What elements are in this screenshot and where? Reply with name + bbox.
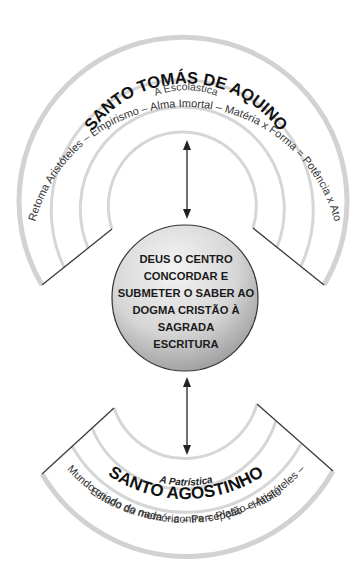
center-line-4: DOGMA CRISTÃO À	[132, 304, 239, 316]
center-line-2: CONCORDAR E	[144, 270, 229, 282]
top-outer-label: Retoma Aristóteles – Empirismo – Alma Im…	[26, 97, 345, 222]
center-line-5: SAGRADA	[158, 321, 215, 333]
top-double-arrow	[183, 140, 191, 219]
center-line-1: DEUS O CENTRO	[139, 253, 233, 265]
philosophy-diagram: Retoma Aristóteles – Empirismo – Alma Im…	[0, 0, 361, 582]
top-right-edge	[253, 228, 324, 285]
arrow-up-head	[183, 377, 191, 387]
arrow-up-head	[183, 140, 191, 150]
top-arc-4	[108, 132, 256, 229]
bottom-double-arrow	[183, 377, 191, 455]
center-circle: DEUS O CENTRO CONCORDAR E SUBMETER O SAB…	[112, 225, 258, 371]
center-line-3: SUBMETER O SABER AO	[118, 287, 255, 299]
center-line-6: ESCRITURA	[153, 338, 218, 350]
arrow-down-head	[183, 209, 191, 219]
arrow-down-head	[183, 445, 191, 455]
bottom-left-edge	[42, 408, 114, 474]
